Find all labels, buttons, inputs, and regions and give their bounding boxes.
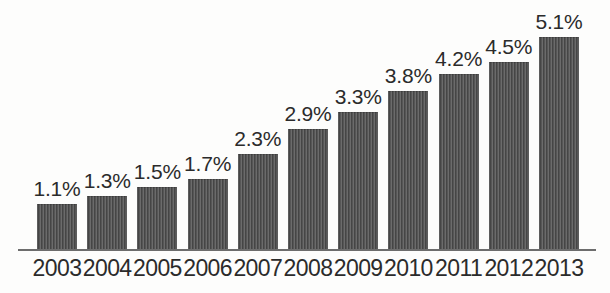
- value-label-2005: 1.5%: [134, 161, 181, 182]
- value-label-2011: 4.2%: [435, 48, 482, 69]
- bar-2009[interactable]: [338, 112, 378, 250]
- bar-group: 1.5%: [137, 153, 177, 250]
- bar-group: 5.1%: [539, 3, 579, 250]
- bar-group: 3.8%: [388, 57, 428, 250]
- plot-area: 1.1%1.3%1.5%1.7%2.3%2.9%3.3%3.8%4.2%4.5%…: [0, 0, 610, 250]
- bar-group: 4.5%: [489, 28, 529, 250]
- bar-2003[interactable]: [37, 204, 77, 250]
- bar-group: 1.7%: [188, 145, 228, 250]
- bar-2006[interactable]: [188, 179, 228, 250]
- bar-group: 2.9%: [288, 95, 328, 250]
- value-label-2008: 2.9%: [284, 103, 331, 124]
- bar-2005[interactable]: [137, 187, 177, 250]
- bar-group: 1.3%: [87, 162, 127, 250]
- bar-2004[interactable]: [87, 196, 127, 250]
- value-label-2012: 4.5%: [485, 36, 532, 57]
- bar-group: 1.1%: [37, 170, 77, 250]
- category-axis-line: [18, 249, 596, 251]
- category-label-2010: 2010: [384, 257, 433, 280]
- bar-2007[interactable]: [238, 154, 278, 250]
- category-label-2012: 2012: [484, 257, 533, 280]
- category-axis-labels: 2003200420052006200720082009201020112012…: [0, 255, 610, 293]
- bar-2008[interactable]: [288, 129, 328, 250]
- category-label-2003: 2003: [33, 257, 82, 280]
- category-label-2007: 2007: [233, 257, 282, 280]
- value-label-2007: 2.3%: [234, 128, 281, 149]
- bar-2013[interactable]: [539, 37, 579, 250]
- category-label-2009: 2009: [334, 257, 383, 280]
- bar-2010[interactable]: [388, 91, 428, 250]
- bar-group: 3.3%: [338, 78, 378, 250]
- category-label-2008: 2008: [284, 257, 333, 280]
- bar-group: 2.3%: [238, 120, 278, 250]
- value-label-2006: 1.7%: [184, 153, 231, 174]
- value-label-2003: 1.1%: [33, 178, 80, 199]
- bar-group: 4.2%: [439, 40, 479, 250]
- bar-2012[interactable]: [489, 62, 529, 250]
- value-label-2013: 5.1%: [535, 11, 582, 32]
- category-label-2011: 2011: [435, 257, 482, 280]
- category-label-2004: 2004: [83, 257, 132, 280]
- value-label-2009: 3.3%: [335, 86, 382, 107]
- category-label-2005: 2005: [133, 257, 182, 280]
- bar-2011[interactable]: [439, 74, 479, 250]
- bar-chart: 1.1%1.3%1.5%1.7%2.3%2.9%3.3%3.8%4.2%4.5%…: [0, 0, 610, 293]
- value-label-2010: 3.8%: [385, 65, 432, 86]
- category-label-2013: 2013: [535, 257, 584, 280]
- value-label-2004: 1.3%: [84, 170, 131, 191]
- category-label-2006: 2006: [183, 257, 232, 280]
